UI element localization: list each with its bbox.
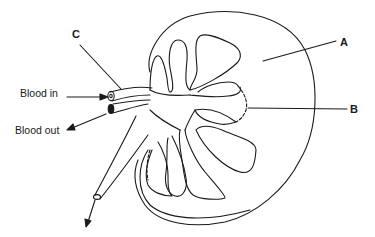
lower-pyramid-dashed	[147, 150, 150, 180]
blood-out-arrowhead	[67, 124, 75, 130]
urine-out-arrow-line	[88, 200, 95, 222]
kidney-diagram	[0, 0, 375, 237]
leader-line-a	[263, 41, 336, 61]
renal-pelvis-top	[150, 90, 190, 95]
renal-artery	[110, 87, 152, 92]
label-blood-in: Blood in	[20, 88, 58, 99]
vein-opening	[108, 105, 114, 114]
right-pyramid-dashed	[236, 86, 247, 122]
middle-right-pyramid	[195, 109, 236, 124]
renal-vein-bottom	[112, 104, 148, 113]
label-a: A	[340, 37, 348, 48]
upper-pyramid-2	[169, 40, 190, 92]
ureter-left	[95, 116, 136, 195]
upper-pyramid-1	[150, 56, 170, 92]
renal-pelvis-lower	[185, 110, 195, 130]
kidney-outline	[135, 12, 315, 225]
ureter-opening	[94, 195, 101, 200]
lower-right-pyramid	[196, 126, 256, 172]
artery-lumen	[110, 94, 112, 98]
label-blood-out: Blood out	[15, 125, 59, 136]
blood-in-arrowhead	[100, 94, 108, 100]
upper-pyramid-3	[190, 35, 240, 90]
renal-pelvis-bottom	[150, 110, 180, 130]
artery-opening	[108, 91, 114, 100]
urine-out-arrowhead	[85, 219, 91, 227]
blood-out-arrow-line	[72, 114, 106, 128]
leader-line-b	[248, 108, 347, 109]
lower-inner-curve	[140, 150, 250, 218]
renal-vein-top	[113, 100, 150, 104]
label-b: B	[350, 104, 358, 115]
label-c: C	[72, 29, 80, 40]
right-pyramid-top	[198, 82, 238, 92]
leader-line-c	[80, 45, 121, 89]
